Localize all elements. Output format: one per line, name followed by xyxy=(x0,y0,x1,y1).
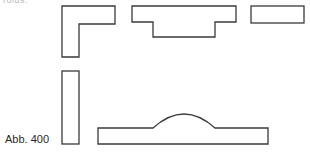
vertical-rectangle-piece xyxy=(62,71,79,144)
figure-caption: Abb. 400 xyxy=(5,133,49,145)
plate-with-arc-piece xyxy=(98,114,268,144)
l-shaped-piece xyxy=(62,6,115,57)
flat-rectangle-piece xyxy=(251,6,304,23)
stepped-t-piece xyxy=(132,6,236,37)
